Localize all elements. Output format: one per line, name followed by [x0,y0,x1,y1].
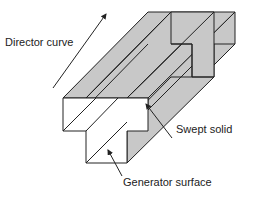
swept-solid-label: Swept solid [176,123,232,135]
director-curve-label: Director curve [5,36,73,48]
swept-solid-diagram: Director curve Swept solid Generator sur… [0,0,260,202]
generator-surface-label: Generator surface [123,176,212,188]
